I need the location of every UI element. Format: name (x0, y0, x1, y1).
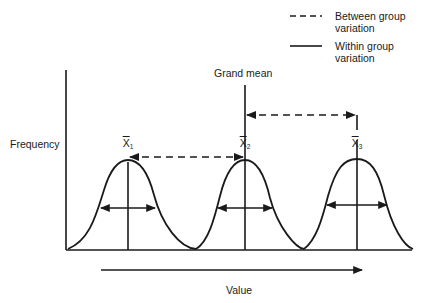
legend-within-line2: variation (335, 52, 394, 64)
grand-mean-label: Grand mean (214, 67, 272, 79)
distribution-curve-1 (68, 160, 196, 249)
x-axis-label: Value (226, 284, 252, 296)
mean-symbol: X (352, 137, 359, 149)
legend-within-line1: Within group (335, 40, 394, 52)
mean-label-1: X1 (118, 137, 138, 153)
legend-between-line2: variation (335, 22, 406, 34)
mean-symbol: X (240, 137, 247, 149)
legend-within-label: Within group variation (335, 40, 394, 64)
legend-between-label: Between group variation (335, 10, 406, 34)
mean-label-2: X2 (235, 137, 255, 153)
legend-between-line1: Between group (335, 10, 406, 22)
mean-subscript: 3 (359, 143, 363, 150)
distribution-curve-2 (196, 160, 304, 249)
distribution-curve-3 (304, 159, 413, 249)
mean-symbol: X (123, 137, 130, 149)
mean-label-3: X3 (347, 137, 367, 153)
mean-subscript: 1 (130, 143, 134, 150)
y-axis-label: Frequency (10, 138, 60, 150)
mean-subscript: 2 (247, 143, 251, 150)
